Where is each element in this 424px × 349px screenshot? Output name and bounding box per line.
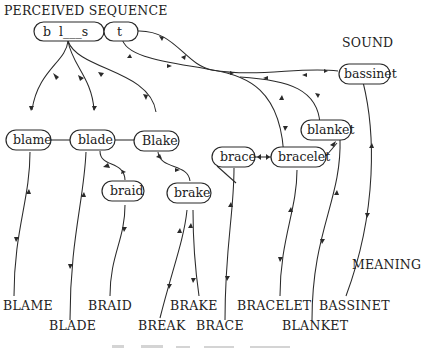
meaning-word-break: BREAK <box>138 318 186 333</box>
sequence-node-t-label: t <box>117 24 122 39</box>
sound-node-bracelet[interactable]: bracelet <box>271 147 330 167</box>
meaning-heading: MEANING <box>352 257 421 272</box>
sound-node-blame-label: blame <box>13 132 52 147</box>
edge-bracelet-BRACELET <box>280 170 297 296</box>
meaning-word-blade: BLADE <box>49 318 96 333</box>
edge-blake-brake <box>158 152 190 181</box>
edge-braid-BRAID <box>110 205 125 296</box>
edge-blade-BLADE <box>70 152 86 320</box>
sound-node-braid[interactable]: braid <box>102 181 144 201</box>
edge-brace-BRACE <box>225 168 234 320</box>
caption-remnant <box>112 345 290 348</box>
sequence-node-t[interactable]: t <box>104 22 138 41</box>
edge-bls-blade <box>68 41 94 110</box>
edges <box>14 31 371 320</box>
sound-node-blade[interactable]: blade <box>70 130 115 150</box>
sound-node-bracelet-label: bracelet <box>278 149 330 164</box>
edge-brake-BRAKE <box>193 210 199 296</box>
sound-node-brake-label: brake <box>174 185 210 200</box>
meaning-word-bracelet: BRACELET <box>237 298 312 313</box>
sound-node-brake[interactable]: brake <box>167 183 211 203</box>
edge-blade-braid <box>100 151 125 180</box>
meaning-word-blame: BLAME <box>3 298 53 313</box>
meaning-word-brace: BRACE <box>196 318 244 333</box>
sound-node-blanket[interactable]: blanket <box>301 120 355 140</box>
sound-node-blanket-label: blanket <box>307 122 355 137</box>
edge-brake-brace <box>217 166 236 183</box>
sound-node-bassinet-label: bassinet <box>344 66 397 81</box>
meaning-word-bassinet: BASSINET <box>319 298 390 313</box>
edge-t-upper <box>138 31 212 70</box>
sound-node-blake[interactable]: Blake <box>134 131 179 151</box>
sound-node-brace-label: brace <box>220 149 256 164</box>
edge-blame-BLAME <box>14 152 30 296</box>
edge-bls-blake <box>68 41 156 112</box>
word-recognition-network-diagram: PERCEIVED SEQUENCE SOUND MEANING <box>0 0 424 349</box>
sound-node-blade-label: blade <box>78 132 113 147</box>
sequence-node-bls-label: b l___s <box>43 24 88 39</box>
sound-heading: SOUND <box>342 35 393 50</box>
sequence-node-bls[interactable]: b l___s <box>34 22 104 41</box>
meaning-word-brake: BRAKE <box>170 298 218 313</box>
sound-node-brace[interactable]: brace <box>212 147 256 167</box>
sound-node-blake-label: Blake <box>142 133 178 148</box>
edge-bls-blame <box>32 41 68 110</box>
sound-node-braid-label: braid <box>110 183 143 198</box>
meaning-word-braid: BRAID <box>88 298 132 313</box>
sound-node-blame[interactable]: blame <box>6 130 52 150</box>
perceived-sequence-heading: PERCEIVED SEQUENCE <box>4 3 168 18</box>
meaning-word-blanket: BLANKET <box>282 318 349 333</box>
sound-node-bassinet[interactable]: bassinet <box>339 64 397 84</box>
